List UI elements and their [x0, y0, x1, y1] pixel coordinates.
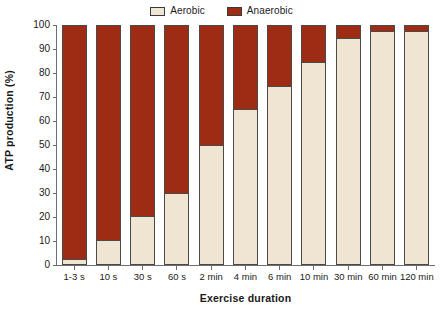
- bar-segment-anaerobic[interactable]: [200, 26, 223, 145]
- bar-segment-aerobic[interactable]: [97, 240, 120, 264]
- x-axis-tick: 30 s: [126, 266, 160, 282]
- x-axis-tick-mark: [348, 266, 349, 270]
- x-axis-tick-label: 60 s: [168, 272, 186, 282]
- y-axis-tick: 90: [39, 44, 57, 54]
- x-axis-tick-mark: [279, 266, 280, 270]
- x-axis-tick-label: 6 min: [268, 272, 291, 282]
- bar-slot: [194, 25, 228, 265]
- bar-slot: [365, 25, 399, 265]
- stacked-bar[interactable]: [404, 25, 429, 265]
- x-axis-tick-mark: [142, 266, 143, 270]
- y-axis-tick-label: 10: [39, 236, 50, 246]
- plot-area: 1009080706050403020100 1-3 s10 s30 s60 s…: [57, 25, 434, 265]
- bar-segment-aerobic[interactable]: [165, 193, 188, 264]
- y-axis-title-text: ATP production (%): [3, 70, 15, 171]
- x-axis-tick-label: 10 min: [300, 272, 329, 282]
- legend-swatch-aerobic-icon: [150, 7, 165, 16]
- x-axis-tick-label: 60 min: [368, 272, 397, 282]
- x-axis-tick: 1-3 s: [57, 266, 91, 282]
- bar-slot: [160, 25, 194, 265]
- y-axis-tick: 20: [39, 212, 57, 222]
- bar-slot: [331, 25, 365, 265]
- bar-segment-anaerobic[interactable]: [337, 26, 360, 38]
- y-axis-tick: 30: [39, 188, 57, 198]
- bar-segment-anaerobic[interactable]: [268, 26, 291, 86]
- y-axis-tick-label: 70: [39, 92, 50, 102]
- x-axis-tick: 30 min: [331, 266, 365, 282]
- bar-slot: [57, 25, 91, 265]
- legend-swatch-anaerobic-icon: [227, 7, 242, 16]
- x-axis-tick-mark: [313, 266, 314, 270]
- x-axis-tick: 6 min: [263, 266, 297, 282]
- y-axis-tick: 70: [39, 92, 57, 102]
- y-axis-tick: 100: [33, 20, 57, 30]
- x-axis-tick-mark: [382, 266, 383, 270]
- x-axis-tick: 120 min: [400, 266, 434, 282]
- x-axis-tick-mark: [74, 266, 75, 270]
- stacked-bar[interactable]: [267, 25, 292, 265]
- stacked-bar[interactable]: [199, 25, 224, 265]
- stacked-bar[interactable]: [62, 25, 87, 265]
- x-axis-tick: 10 min: [297, 266, 331, 282]
- x-axis-tick-label: 30 s: [134, 272, 152, 282]
- legend-item-anaerobic: Anaerobic: [227, 6, 293, 16]
- bar-slot: [297, 25, 331, 265]
- bar-segment-anaerobic[interactable]: [63, 26, 86, 259]
- y-axis-tick: 60: [39, 116, 57, 126]
- x-axis-ticks: 1-3 s10 s30 s60 s2 min4 min6 min10 min30…: [57, 266, 434, 282]
- y-axis-title: ATP production (%): [2, 0, 16, 240]
- x-axis-tick: 60 min: [365, 266, 399, 282]
- y-axis-tick: 40: [39, 164, 57, 174]
- bar-segment-aerobic[interactable]: [371, 31, 394, 264]
- stacked-bar[interactable]: [96, 25, 121, 265]
- stacked-bar[interactable]: [370, 25, 395, 265]
- stacked-bar[interactable]: [233, 25, 258, 265]
- bar-segment-aerobic[interactable]: [337, 38, 360, 264]
- bar-slot: [228, 25, 262, 265]
- bar-group: [57, 25, 434, 265]
- bar-segment-anaerobic[interactable]: [97, 26, 120, 240]
- y-axis-tick-label: 40: [39, 164, 50, 174]
- y-axis-tick-label: 90: [39, 44, 50, 54]
- bar-segment-anaerobic[interactable]: [302, 26, 325, 62]
- x-axis-tick: 10 s: [91, 266, 125, 282]
- bar-segment-aerobic[interactable]: [131, 216, 154, 264]
- y-axis-tick-label: 100: [33, 20, 50, 30]
- x-axis-tick-label: 120 min: [400, 272, 434, 282]
- y-axis-tick: 10: [39, 236, 57, 246]
- y-axis-tick-label: 60: [39, 116, 50, 126]
- stacked-bar[interactable]: [336, 25, 361, 265]
- x-axis-tick-mark: [176, 266, 177, 270]
- x-axis-tick: 60 s: [160, 266, 194, 282]
- bar-segment-aerobic[interactable]: [405, 31, 428, 264]
- x-axis-title: Exercise duration: [57, 292, 434, 304]
- bar-segment-anaerobic[interactable]: [234, 26, 257, 109]
- stacked-bar[interactable]: [301, 25, 326, 265]
- y-axis-tick-label: 20: [39, 212, 50, 222]
- bar-slot: [400, 25, 434, 265]
- bar-segment-aerobic[interactable]: [268, 86, 291, 265]
- x-axis-tick-label: 2 min: [200, 272, 223, 282]
- x-axis-tick-label: 10 s: [99, 272, 117, 282]
- bar-slot: [126, 25, 160, 265]
- legend-label-anaerobic: Anaerobic: [247, 6, 293, 16]
- stacked-bar[interactable]: [130, 25, 155, 265]
- bar-segment-aerobic[interactable]: [302, 62, 325, 264]
- bar-slot: [91, 25, 125, 265]
- x-axis-tick-label: 1-3 s: [64, 272, 85, 282]
- x-axis-tick-label: 30 min: [334, 272, 363, 282]
- y-axis-tick-label: 50: [39, 140, 50, 150]
- bar-segment-anaerobic[interactable]: [165, 26, 188, 193]
- y-axis-tick-label: 30: [39, 188, 50, 198]
- stacked-bar[interactable]: [164, 25, 189, 265]
- x-axis-tick-mark: [108, 266, 109, 270]
- bar-segment-aerobic[interactable]: [200, 145, 223, 264]
- x-axis-tick-mark: [245, 266, 246, 270]
- x-axis-tick-mark: [211, 266, 212, 270]
- x-axis-tick-mark: [416, 266, 417, 270]
- bar-slot: [263, 25, 297, 265]
- bar-segment-aerobic[interactable]: [63, 259, 86, 264]
- x-axis-tick: 2 min: [194, 266, 228, 282]
- bar-segment-anaerobic[interactable]: [131, 26, 154, 216]
- bar-segment-aerobic[interactable]: [234, 109, 257, 264]
